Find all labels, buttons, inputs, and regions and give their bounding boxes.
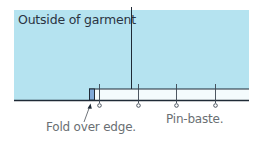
sewing-diagram: Outside of garment Fold over edge. Pin-b… (0, 0, 262, 142)
garment-label: Outside of garment (18, 12, 136, 27)
facing-strip (95, 89, 249, 100)
folded-edge (90, 89, 95, 100)
fold-label: Fold over edge. (46, 120, 136, 134)
pin-baste-label: Pin-baste. (166, 112, 223, 126)
